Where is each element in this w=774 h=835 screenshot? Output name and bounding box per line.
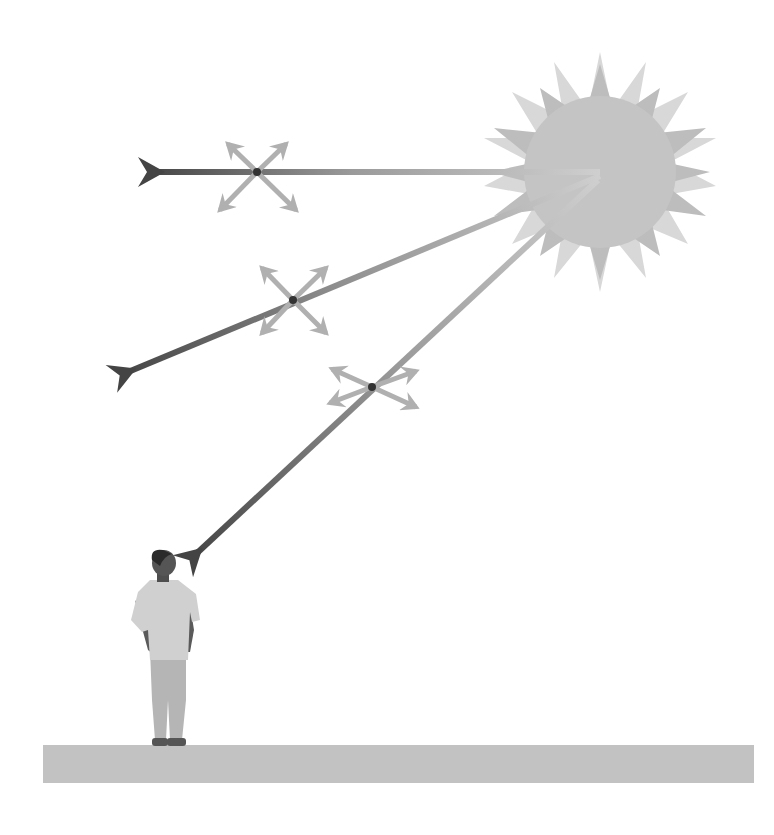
polarization-cross-2-icon xyxy=(262,268,326,333)
ray-to-observer xyxy=(196,180,598,554)
person-looking-up xyxy=(131,550,200,746)
person-pants xyxy=(150,650,186,740)
scattering-diagram xyxy=(0,0,774,835)
polarization-cross-3-icon xyxy=(330,369,416,407)
diagonal-ray xyxy=(128,176,600,372)
ground xyxy=(43,745,754,783)
person-shoe-right xyxy=(167,738,186,746)
polarization-cross-1-icon xyxy=(220,144,296,210)
person-shoe-left xyxy=(152,738,168,746)
